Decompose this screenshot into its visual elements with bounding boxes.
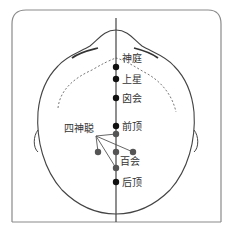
acupoint-marker: [113, 123, 119, 129]
sishencong-point: [113, 165, 119, 171]
acupoint-label: 神庭: [122, 52, 142, 64]
acupoint-marker: [113, 76, 119, 82]
sishencong-point: [95, 149, 101, 155]
acupoint-marker: [113, 64, 119, 70]
acupoint-marker: [113, 179, 119, 185]
acupoint-label: 上星: [122, 74, 142, 85]
sishencong-point: [130, 149, 136, 155]
acupoint-label: 后顶: [122, 177, 142, 188]
acupoint-label: 百会: [120, 155, 140, 167]
acupoint-diagram: 神庭上星囟会前顶百会后顶 四神聪: [0, 0, 230, 250]
left-ear: [34, 130, 38, 152]
right-ear: [194, 130, 198, 152]
acupoint-marker: [113, 149, 119, 155]
acupoint-label: 囟会: [122, 92, 142, 104]
sishencong-label: 四神聪: [64, 122, 94, 134]
acupoint-label: 前顶: [122, 120, 142, 132]
acupoint-marker: [113, 95, 119, 101]
sishencong-point: [113, 131, 119, 137]
